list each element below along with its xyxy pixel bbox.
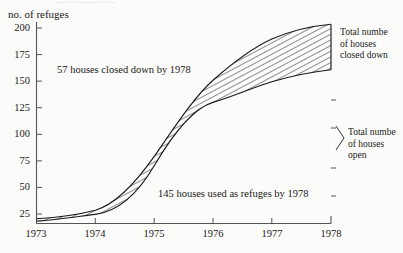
y-tick-marks	[37, 28, 43, 214]
x-tick-label-1977: 1977	[250, 228, 294, 239]
side-label-total-closed-down-line3: closed down	[340, 50, 403, 62]
x-tick-label-1974: 1974	[73, 228, 117, 239]
x-tick-label-1973: 1973	[14, 228, 58, 239]
chart-figure: — –– –––– –– – no. of refuges	[0, 0, 403, 253]
side-label-total-closed-down-line1: Total numbe	[340, 27, 403, 39]
x-tick-marks	[95, 218, 271, 224]
side-label-total-open-line2: of houses	[348, 139, 403, 151]
y-tick-label-50: 50	[0, 181, 30, 192]
x-tick-label-1978: 1978	[309, 228, 353, 239]
open-label-brace	[336, 126, 344, 150]
side-label-total-closed-down-line2: of houses	[340, 39, 403, 51]
side-label-total-open-line3: open	[348, 150, 403, 162]
y-tick-label-25: 25	[0, 208, 30, 219]
x-tick-label-1976: 1976	[191, 228, 235, 239]
side-label-total-closed-down: Total numbe of houses closed down	[340, 27, 403, 62]
side-label-total-open: Total numbe of houses open	[348, 127, 403, 162]
side-label-total-open-line1: Total numbe	[348, 127, 403, 139]
y-tick-label-200: 200	[0, 22, 30, 33]
y-tick-label-75: 75	[0, 155, 30, 166]
y-tick-label-100: 100	[0, 128, 30, 139]
x-tick-label-1975: 1975	[132, 228, 176, 239]
annotation-closed-down: 57 houses closed down by 1978	[57, 64, 191, 75]
y-tick-label-150: 150	[0, 75, 30, 86]
right-tick-marks	[331, 100, 336, 196]
annotation-refuges: 145 houses used as refuges by 1978	[158, 188, 308, 199]
y-tick-label-125: 125	[0, 102, 30, 113]
y-tick-label-175: 175	[0, 49, 30, 60]
